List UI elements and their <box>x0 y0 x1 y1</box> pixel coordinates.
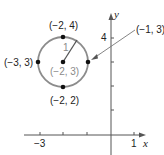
x-tick-label-neg3: −3 <box>34 138 46 149</box>
x-axis <box>24 132 146 138</box>
y-axis <box>109 13 115 155</box>
radius-label: 1 <box>63 42 69 53</box>
label-right: (−1, 3) <box>136 24 164 35</box>
label-left: (−3, 3) <box>4 57 33 68</box>
point-left <box>36 60 41 65</box>
label-top: (−2, 4) <box>49 20 78 31</box>
point-top <box>61 35 66 40</box>
y-axis-label: y <box>113 8 119 20</box>
point-bottom <box>61 85 66 90</box>
label-center: (−2, 3) <box>50 66 79 77</box>
point-right <box>86 60 91 65</box>
leader-arrow-icon <box>91 54 98 60</box>
y-tick-label-4: 4 <box>101 32 107 43</box>
circle-diagram: −3 1 x y 4 1 (−2, 4) (−3, 3) (−1, 3) (−2… <box>0 0 164 155</box>
point-center <box>61 60 66 65</box>
x-tick-label-1: 1 <box>131 138 137 149</box>
label-bottom: (−2, 2) <box>50 95 79 106</box>
x-axis-label: x <box>142 137 148 149</box>
